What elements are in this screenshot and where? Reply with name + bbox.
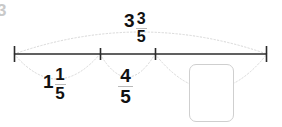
segment-3-answer-input[interactable] xyxy=(189,64,234,122)
total-whole-number: 3 xyxy=(124,11,135,30)
segment-1-whole-number: 1 xyxy=(43,72,54,91)
segment-1-numerator: 1 xyxy=(55,66,64,83)
total-fraction: 3 5 xyxy=(136,11,147,46)
segment-2-fraction: 4 5 xyxy=(118,66,133,107)
segment-1-denominator: 5 xyxy=(55,85,64,102)
worksheet-canvas: 3 3 3 5 1 1 5 xyxy=(0,0,282,127)
segment-2-denominator: 5 xyxy=(120,87,131,106)
segment-1-value-label: 1 1 5 xyxy=(43,66,66,103)
total-numerator: 3 xyxy=(137,11,146,27)
total-value-label: 3 3 5 xyxy=(124,11,147,46)
segment-2-numerator: 4 xyxy=(120,66,131,85)
segment-1-fraction: 1 5 xyxy=(55,66,66,103)
total-denominator: 5 xyxy=(137,29,146,45)
segment-2-value-label: 4 5 xyxy=(118,66,133,107)
